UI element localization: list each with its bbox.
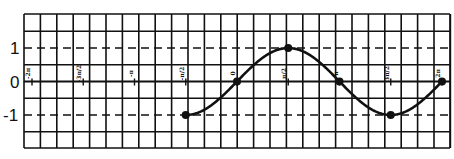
y-axis-labels: 10-1 [3, 39, 19, 125]
data-point [284, 44, 292, 52]
data-point [182, 111, 190, 119]
y-tick-label: 0 [10, 73, 19, 92]
data-point [233, 78, 241, 86]
x-tick-label: -π/2 [178, 67, 185, 80]
y-tick-label: 1 [10, 39, 19, 58]
data-point [387, 111, 395, 119]
x-tick-label: 0 [229, 71, 236, 75]
data-point [438, 78, 446, 86]
x-tick-label: π/2 [280, 68, 287, 79]
y-tick-label: -1 [3, 106, 18, 125]
x-tick-label: -2π [24, 67, 31, 79]
x-tick-label: -3π/2 [75, 65, 82, 82]
x-tick-label: -π [127, 69, 134, 76]
sine-graph: 10-1 -2π-3π/2-π-π/20π/2π3π/22π [0, 0, 454, 159]
x-tick-label: 2π [434, 69, 441, 78]
data-point [336, 78, 344, 86]
x-tick-label: 3π/2 [383, 66, 390, 81]
